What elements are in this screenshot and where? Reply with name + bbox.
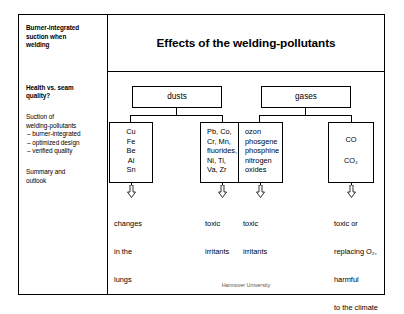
- category-box-gas-carbon-oxides[interactable]: CO CO₂: [328, 122, 374, 183]
- connector-dusts-branch-left: [130, 115, 131, 122]
- effect-line: irritants: [205, 247, 229, 256]
- category-item: Al: [110, 156, 152, 166]
- sidebar-item-line: welding-pollutants: [26, 122, 107, 131]
- group-label: dusts: [167, 92, 187, 102]
- sidebar-item-line: quality?: [26, 92, 107, 101]
- category-item: Va, Zr: [207, 165, 239, 175]
- group-box-dusts[interactable]: dusts: [132, 86, 222, 108]
- effect-caption-dust-compounds: toxic irritants: [205, 200, 229, 275]
- category-item: Fe: [110, 137, 152, 147]
- category-box-dust-metals[interactable]: Cu Fe Be Al Sn: [109, 122, 153, 183]
- effect-line: changes: [114, 219, 142, 228]
- sidebar-sub-item: – burner-integrated: [26, 130, 107, 139]
- effect-line: irritants: [243, 247, 267, 256]
- sidebar: Burner-integrated suction when welding H…: [19, 15, 108, 294]
- category-item: CO₂: [329, 156, 373, 166]
- page-title: Effects of the welding-pollutants: [157, 36, 336, 50]
- category-item: Sn: [110, 165, 152, 175]
- pollutants-diagram: dusts gases Cu Fe Be Al: [108, 72, 384, 294]
- category-item: nitrogen: [245, 156, 277, 166]
- arrow-down-icon: [127, 185, 136, 198]
- sidebar-item-summary-and-outlook[interactable]: Summary and outlook: [26, 168, 107, 185]
- category-item: oxides: [245, 165, 277, 175]
- category-item: Ni, Ti,: [207, 156, 239, 166]
- effect-caption-gas-carbon-oxides: toxic or replacing O₂, harmful to the cl…: [334, 200, 378, 314]
- effect-line: replacing O₂,: [334, 247, 378, 256]
- category-item: ozon: [245, 127, 277, 137]
- sidebar-item-line: Health vs. seam: [26, 84, 107, 93]
- title-band: Effects of the welding-pollutants: [108, 15, 384, 72]
- category-item: Be: [110, 146, 152, 156]
- arrow-down-icon: [218, 185, 227, 198]
- group-box-gases[interactable]: gases: [261, 86, 351, 108]
- slide-frame: Burner-integrated suction when welding H…: [18, 14, 385, 295]
- category-box-gas-toxic[interactable]: ozon phosgene phosphine nitrogen oxides: [238, 122, 283, 183]
- connector-dusts-bus: [130, 115, 223, 116]
- connector-gases-bus: [259, 115, 352, 116]
- connector-dusts-stem: [176, 108, 177, 115]
- sidebar-item-line: Summary and: [26, 168, 107, 177]
- category-item: phosgene: [245, 137, 277, 147]
- category-item: Cr, Mn,: [207, 137, 239, 147]
- sidebar-sub-item: – optimized design: [26, 139, 107, 148]
- sidebar-item-suction-of-welding-pollutants[interactable]: Suction of welding-pollutants – burner-i…: [26, 113, 107, 156]
- sidebar-item-line: Burner-integrated: [26, 24, 107, 33]
- sidebar-item-line: outlook: [26, 177, 107, 186]
- connector-gases-branch-right: [351, 115, 352, 122]
- connector-dusts-branch-right: [222, 115, 223, 122]
- effect-line: in the: [114, 247, 142, 256]
- sidebar-item-burner-integrated-suction[interactable]: Burner-integrated suction when welding: [26, 24, 107, 50]
- connector-gases-stem: [305, 108, 306, 115]
- footer-attribution: Hannover University: [108, 282, 384, 288]
- effect-line: toxic: [205, 219, 229, 228]
- category-item: phosphine: [245, 146, 277, 156]
- effect-line: toxic or: [334, 219, 378, 228]
- category-item: CO: [329, 135, 373, 145]
- category-item: Pb, Co,: [207, 127, 239, 137]
- effect-line: to the climate: [334, 303, 378, 312]
- connector-gases-branch-left: [259, 115, 260, 122]
- group-label: gases: [295, 92, 317, 102]
- category-item: fluorides,: [207, 146, 239, 156]
- sidebar-item-line: Suction of: [26, 113, 107, 122]
- arrow-down-icon: [256, 185, 265, 198]
- arrow-down-icon: [347, 185, 356, 198]
- effect-line: toxic: [243, 219, 267, 228]
- category-item: Cu: [110, 127, 152, 137]
- sidebar-item-health-vs-seam-quality[interactable]: Health vs. seam quality?: [26, 84, 107, 101]
- main-content: Effects of the welding-pollutants dusts …: [108, 15, 384, 294]
- sidebar-item-line: welding: [26, 41, 107, 50]
- effect-caption-gas-toxic: toxic irritants: [243, 200, 267, 275]
- sidebar-item-line: suction when: [26, 33, 107, 42]
- sidebar-sub-item: – verified quality: [26, 147, 107, 156]
